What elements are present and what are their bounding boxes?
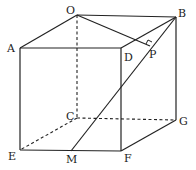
edge-EF <box>20 150 121 151</box>
edge-OA <box>20 15 77 48</box>
label-B: B <box>178 7 186 20</box>
right-angle-marker <box>146 40 152 44</box>
segment-OP <box>77 15 150 46</box>
label-E: E <box>8 150 16 163</box>
segment-BM <box>71 17 176 151</box>
label-A: A <box>6 42 16 55</box>
edge-BD <box>121 17 176 48</box>
label-C: C <box>66 110 74 123</box>
label-M: M <box>66 153 77 166</box>
label-O: O <box>66 4 75 17</box>
label-F: F <box>124 152 132 165</box>
label-D: D <box>124 51 133 64</box>
edge-CG-hidden <box>77 118 176 120</box>
cube-diagram: O B A D P C G E F M <box>0 0 196 170</box>
edge-OB <box>77 15 176 17</box>
label-P: P <box>149 48 157 61</box>
edge-FG <box>121 120 176 151</box>
label-G: G <box>179 115 188 128</box>
